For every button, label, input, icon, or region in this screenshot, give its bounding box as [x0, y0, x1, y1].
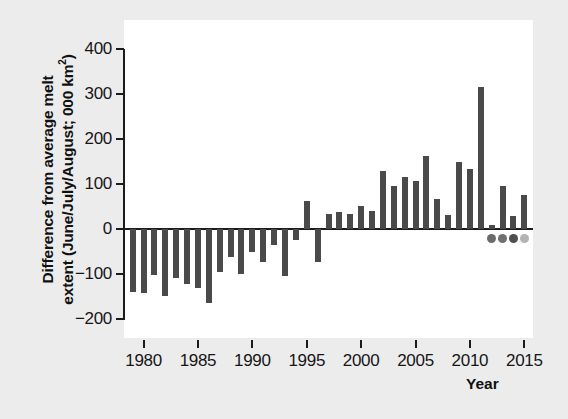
x-tick-1990	[251, 340, 253, 348]
bar-1989	[238, 229, 244, 274]
x-tick-label-2010: 2010	[452, 351, 489, 371]
x-tick-label-2000: 2000	[343, 351, 380, 371]
bar-2009	[456, 162, 462, 229]
x-tick-label-1990: 1990	[234, 351, 271, 371]
y-tick-label--100: −100	[75, 264, 112, 284]
y-tick-label-300: 300	[85, 84, 112, 104]
x-tick-2015	[523, 340, 525, 348]
bar-2014	[510, 216, 516, 229]
bar-2007	[434, 199, 440, 229]
y-tick-200	[116, 138, 124, 140]
x-tick-label-2005: 2005	[397, 351, 434, 371]
x-tick-label-2015: 2015	[506, 351, 543, 371]
bar-1982	[162, 229, 168, 296]
bar-1979	[130, 229, 136, 292]
bar-2001	[369, 211, 375, 229]
x-tick-label-1985: 1985	[180, 351, 217, 371]
bar-1986	[206, 229, 212, 303]
bar-1985	[195, 229, 201, 288]
bar-2004	[402, 177, 408, 229]
x-tick-1985	[197, 340, 199, 348]
x-axis-title: Year	[466, 375, 499, 393]
bar-2011	[478, 87, 484, 229]
x-tick-2005	[415, 340, 417, 348]
bar-1983	[173, 229, 179, 278]
bar-1994	[293, 229, 299, 240]
x-tick-2010	[469, 340, 471, 348]
x-tick-label-1995: 1995	[288, 351, 325, 371]
y-tick--100	[116, 273, 124, 275]
bar-2015	[521, 195, 527, 229]
bar-2002	[380, 171, 386, 229]
bar-2005	[413, 181, 419, 229]
y-tick-400	[116, 48, 124, 50]
y-tick-label-0: 0	[103, 219, 112, 239]
bar-1993	[282, 229, 288, 276]
bar-1992	[271, 229, 277, 245]
x-tick-2000	[360, 340, 362, 348]
bar-2003	[391, 186, 397, 229]
y-tick-label-400: 400	[85, 39, 112, 59]
bar-1984	[184, 229, 190, 284]
bar-1990	[249, 229, 255, 252]
bar-1987	[217, 229, 223, 272]
y-tick--200	[116, 318, 124, 320]
y-axis-title-line2: extent (June/July/August; 000 km2)	[59, 54, 76, 304]
bar-1991	[260, 229, 266, 262]
bar-2000	[358, 206, 364, 229]
bar-1996	[315, 229, 321, 262]
bar-1980	[141, 229, 147, 293]
bar-1997	[326, 214, 332, 229]
bar-2012	[489, 225, 495, 230]
bar-2010	[467, 169, 473, 229]
y-tick-300	[116, 93, 124, 95]
x-tick-1980	[143, 340, 145, 348]
y-axis-title-line1: Difference from average melt	[39, 75, 56, 283]
bar-2013	[500, 186, 506, 229]
y-axis-title: Difference from average melt extent (Jun…	[39, 19, 78, 339]
chart-figure: 4003002001000−100−200 198019851990199520…	[0, 0, 568, 419]
bar-2006	[423, 156, 429, 229]
x-tick-label-1980: 1980	[125, 351, 162, 371]
bar-1995	[304, 201, 310, 229]
y-tick-label-200: 200	[85, 129, 112, 149]
bar-1999	[347, 214, 353, 229]
y-tick-label-100: 100	[85, 174, 112, 194]
y-tick-label--200: −200	[75, 309, 112, 329]
bar-1988	[228, 229, 234, 257]
y-tick-100	[116, 183, 124, 185]
bar-1981	[151, 229, 157, 275]
x-tick-1995	[306, 340, 308, 348]
bar-2008	[445, 215, 451, 229]
bar-1998	[336, 212, 342, 229]
y-tick-0	[116, 228, 124, 230]
